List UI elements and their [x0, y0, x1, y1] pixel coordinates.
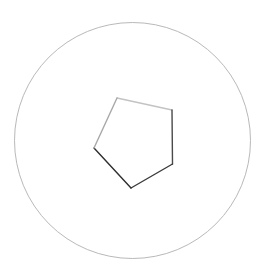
pentagon-edge-right	[172, 110, 173, 164]
shape-canvas-root	[0, 0, 267, 275]
shape-canvas	[0, 0, 267, 275]
canvas-background	[0, 0, 267, 275]
